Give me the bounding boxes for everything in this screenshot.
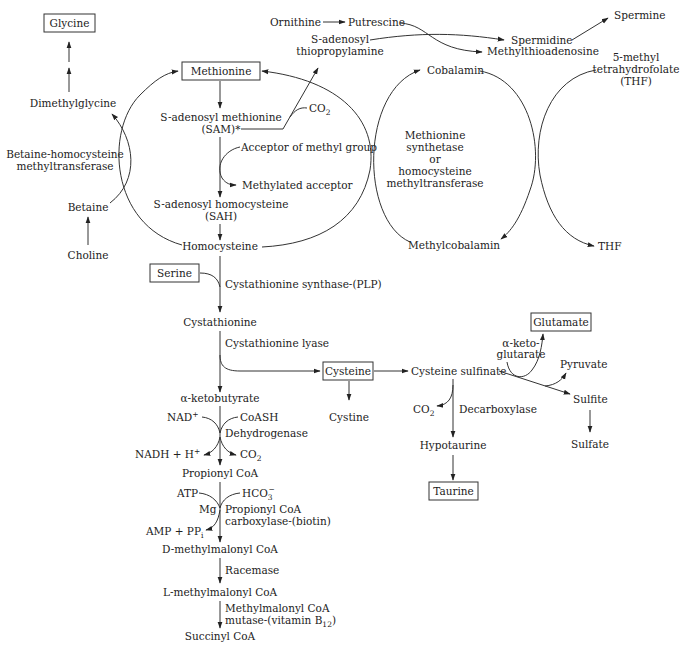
d-mmcoa-label: D-methylmalonyl CoA	[162, 543, 278, 555]
ms-label-4: homocysteine	[398, 165, 471, 177]
pyruvate-label: Pyruvate	[560, 358, 607, 370]
decarboxylase-label: Decarboxylase	[459, 403, 537, 415]
propionyl-coa-label: Propionyl CoA	[182, 467, 259, 479]
amp-label: AMP + PPi	[145, 525, 204, 540]
ms-label-5: methyltransferase	[386, 177, 483, 189]
methylated-acceptor-label: Methylated acceptor	[242, 179, 353, 191]
hco3-label: HCO3−	[242, 485, 275, 502]
co2-release-decarboxylase	[437, 385, 453, 406]
sadtp-label-1: S-adenosyl	[311, 33, 370, 45]
serine-label: Serine	[157, 267, 192, 279]
akb-label: α-ketobutyrate	[180, 392, 259, 404]
cysteine-sulfinate-label: Cysteine sulfinate	[411, 365, 506, 377]
racemase-label: Racemase	[225, 564, 279, 576]
sah-label-1: S-adenosyl homocysteine	[154, 198, 289, 210]
choline-label: Choline	[68, 249, 109, 261]
cgl-label: Cystathionine lyase	[225, 337, 329, 349]
nad-in-arc	[202, 417, 220, 433]
mcm-label-2: mutase-(vitamin B12)	[225, 614, 336, 629]
bhmt-label-1: Betaine-homocysteine	[6, 148, 124, 160]
arrow-sadtp-to-spermidine	[370, 34, 504, 40]
arc-homocysteine-to-methionine-left	[119, 71, 182, 245]
mthf-label-3: (THF)	[620, 75, 652, 87]
sam-label-1: S-adenosyl methionine	[160, 111, 281, 123]
serine-join-arc	[200, 273, 220, 287]
sadtp-label-2: thiopropylamine	[296, 45, 383, 57]
bhmt-label-2: methyltransferase	[16, 160, 113, 172]
betaine-label: Betaine	[68, 201, 109, 213]
arc-mthf-to-thf	[538, 70, 596, 246]
homocysteine-label: Homocysteine	[182, 240, 258, 252]
ms-label-2: synthetase	[406, 141, 463, 153]
sulfate-label: Sulfate	[571, 438, 609, 450]
taurine-label: Taurine	[433, 485, 474, 497]
cobalamin-label: Cobalamin	[427, 64, 484, 76]
l-mmcoa-label: L-methylmalonyl CoA	[163, 586, 278, 598]
mthf-label-1: 5-methyl	[613, 51, 660, 63]
arrow-cysteine-sulfinate-to-sulfite	[499, 371, 570, 394]
nadh-label: NADH + H+	[135, 447, 200, 460]
pcc-label-2: carboxylase-(biotin)	[225, 515, 331, 527]
dimethylglycine-label: Dimethylglycine	[30, 97, 116, 109]
mthf-label-2: tetrahydrofolate	[593, 63, 680, 75]
pcc-label-1: Propionyl CoA	[225, 503, 302, 515]
putrescine-label: Putrescine	[348, 16, 405, 28]
co2-out-arc	[220, 437, 236, 455]
dehydrogenase-label: Dehydrogenase	[225, 427, 308, 439]
succinyl-coa-label: Succinyl CoA	[185, 630, 256, 642]
spermine-label: Spermine	[614, 9, 665, 21]
nad-label: NAD+	[167, 410, 199, 423]
arc-methylcobalamin-to-cobalamin	[374, 70, 420, 242]
glutamate-label: Glutamate	[533, 316, 589, 328]
arrow-cystathionine-to-cysteine	[220, 355, 320, 371]
co2-dh-label: CO2	[240, 448, 262, 463]
methionine-metabolism-diagram: Glycine Dimethylglycine Betaine-homocyst…	[0, 0, 688, 648]
mcm-label-1: Methylmalonyl CoA	[225, 602, 330, 614]
glycine-label: Glycine	[50, 17, 90, 29]
arc-homocysteine-to-methionine-right	[262, 71, 371, 247]
methylcobalamin-label: Methylcobalamin	[408, 239, 500, 251]
ms-label-3: or	[429, 153, 441, 165]
coash-label: CoASH	[240, 411, 278, 423]
cystine-label: Cystine	[329, 411, 369, 423]
co2-decarb-label: CO2	[413, 403, 435, 418]
ornithine-label: Ornithine	[270, 16, 321, 28]
arrow-putrescine-to-mta	[400, 23, 482, 52]
methyl-transfer-arc	[220, 147, 240, 185]
sam-label-2: (SAM)*	[202, 123, 242, 135]
hypotaurine-label: Hypotaurine	[420, 439, 487, 451]
mta-label: Methylthioadenosine	[487, 45, 599, 57]
acceptor-label: Acceptor of methyl group	[240, 141, 377, 153]
cysteine-label: Cysteine	[325, 365, 371, 377]
ms-label-1: Methionine	[405, 129, 466, 141]
mg-label: Mg	[199, 503, 217, 515]
arrow-to-pyruvate	[545, 373, 566, 386]
atp-label: ATP	[176, 487, 198, 499]
sulfite-label: Sulfite	[573, 393, 608, 405]
thf-label: THF	[598, 240, 621, 252]
arc-cobalamin-to-methylcobalamin	[480, 71, 536, 239]
arrow-spermidine-to-spermine	[572, 18, 608, 40]
cystathionine-label: Cystathionine	[183, 316, 257, 328]
sah-label-2: (SAH)	[205, 210, 237, 222]
methionine-label: Methionine	[191, 65, 252, 77]
co2-sam-label: CO2	[309, 102, 331, 117]
cbs-label: Cystathionine synthase-(PLP)	[225, 278, 382, 290]
nadh-out-arc	[204, 437, 220, 455]
